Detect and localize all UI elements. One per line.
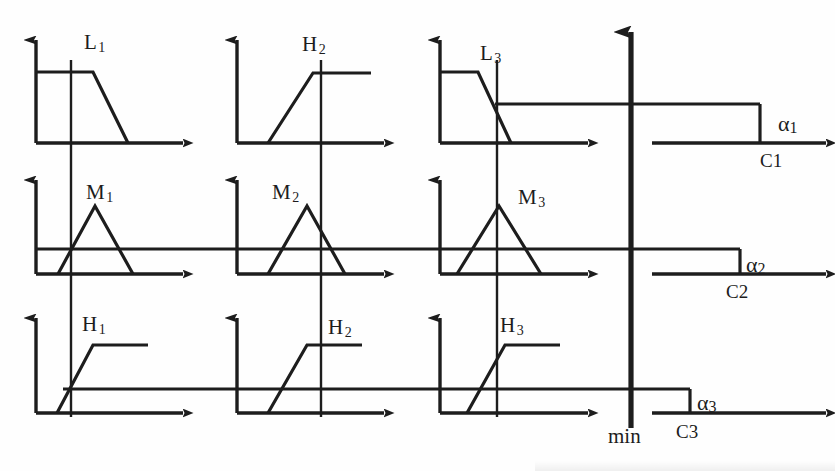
plot-axes-M3 — [440, 180, 588, 274]
membership-curve-M2 — [268, 206, 345, 274]
page-edge-shadow — [535, 461, 835, 471]
membership-curve-L3 — [440, 72, 511, 143]
membership-curve-H2-top — [268, 73, 371, 143]
plot-axes-H2-bot — [237, 318, 384, 413]
label-M2: M2 — [272, 180, 300, 206]
label-M1: M1 — [86, 180, 114, 206]
label-C1: C1 — [760, 150, 782, 172]
label-L1: L1 — [84, 30, 106, 56]
label-C2: C2 — [726, 281, 748, 303]
label-alpha-2: α2 — [746, 252, 766, 278]
label-alpha-3: α3 — [697, 390, 717, 416]
fuzzy-inference-diagram: L1 H2 L3 M1 M2 M3 H1 H2 H3 α1 C1 α2 C2 α… — [0, 0, 835, 471]
label-H3: H3 — [500, 313, 524, 339]
plot-axes-L1 — [36, 40, 183, 143]
membership-curve-M3 — [457, 206, 541, 274]
label-alpha-1: α1 — [778, 111, 798, 137]
label-C3: C3 — [676, 421, 698, 443]
label-min: min — [608, 424, 641, 449]
plot-axes-L3 — [440, 40, 588, 143]
label-L3: L3 — [480, 41, 502, 67]
plot-axes-M2 — [237, 180, 384, 274]
label-H2-top: H2 — [302, 32, 326, 58]
label-H1: H1 — [82, 312, 106, 338]
membership-curve-M1 — [58, 206, 133, 274]
membership-curve-H2-bot — [268, 345, 362, 413]
label-M3: M3 — [518, 185, 546, 211]
membership-curve-L1 — [36, 72, 128, 143]
label-H2-bottom: H2 — [328, 315, 352, 341]
plot-axes-H1 — [36, 318, 183, 413]
membership-curve-H3 — [467, 345, 560, 413]
